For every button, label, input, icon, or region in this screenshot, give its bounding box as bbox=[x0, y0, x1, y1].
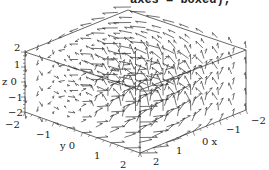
box-frame bbox=[25, 10, 246, 153]
x-axis-tick-label: −1 bbox=[226, 125, 241, 135]
x-axis-tick-label: −2 bbox=[251, 116, 266, 126]
x-axis-tick-label: 2 bbox=[153, 157, 159, 167]
y-axis-tick-label: y 0 bbox=[60, 141, 75, 151]
vector-field-plot bbox=[0, 0, 269, 170]
z-axis-tick-label: 2 bbox=[14, 43, 20, 53]
z-axis-tick-label: −2 bbox=[8, 108, 23, 118]
y-axis-tick-label: −1 bbox=[36, 130, 51, 140]
y-axis-tick-label: 2 bbox=[120, 160, 126, 170]
y-axis-tick-label: 1 bbox=[94, 151, 100, 161]
x-axis-tick-label: 0 x bbox=[202, 137, 217, 147]
y-axis-tick-label: −2 bbox=[5, 120, 20, 130]
x-axis-tick-label: 1 bbox=[176, 146, 182, 156]
z-axis-tick-label: z 0 bbox=[2, 77, 17, 87]
z-axis-tick-label: −1 bbox=[8, 93, 23, 103]
z-axis-tick-label: 1 bbox=[14, 60, 20, 70]
field-arrows bbox=[25, 7, 246, 153]
